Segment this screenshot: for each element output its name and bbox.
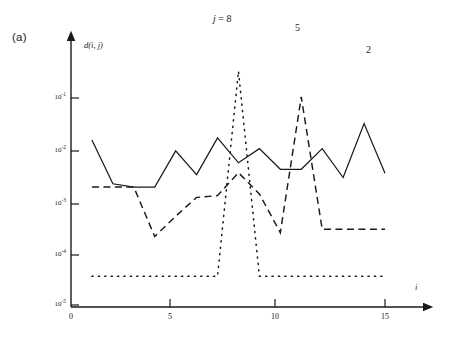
- y-tick-label-1e-5: 10-5: [44, 300, 66, 308]
- y-tick-exponent-4: -4: [62, 248, 67, 254]
- panel-label: (a): [12, 31, 27, 43]
- plot-canvas: [0, 0, 449, 337]
- y-tick-label-1e-3: 10-3: [44, 199, 66, 207]
- y-tick-label-1e-1: 10-1: [44, 93, 66, 101]
- x-tick-label-15: 15: [376, 312, 394, 321]
- annotation-j-equals-8: j = 8: [213, 13, 231, 24]
- y-axis-ticks: [71, 98, 79, 305]
- y-axis-label: d(i, j): [84, 40, 103, 50]
- figure-panel-a: (a) d(i, j) i 10-1 10-2 10-3 10-4 10-5 0…: [0, 0, 449, 337]
- x-tick-label-5: 5: [161, 312, 179, 321]
- x-axis-label: i: [415, 282, 417, 292]
- y-tick-label-1e-4: 10-4: [44, 250, 66, 258]
- x-tick-label-10: 10: [266, 312, 284, 321]
- x-tick-label-0: 0: [62, 312, 80, 321]
- annotation-series-5: 5: [295, 22, 300, 33]
- x-axis-ticks: [170, 299, 385, 307]
- annotation-j-value: = 8: [216, 13, 232, 24]
- series-line-5-dashed: [92, 97, 385, 237]
- y-tick-exponent-1: -1: [62, 91, 67, 97]
- annotation-series-2: 2: [366, 44, 371, 55]
- series-line-2-solid: [92, 124, 385, 187]
- y-tick-exponent-3: -3: [62, 197, 67, 203]
- y-tick-exponent-2: -2: [62, 144, 67, 150]
- y-tick-label-1e-2: 10-2: [44, 146, 66, 154]
- y-tick-exponent-5: -5: [62, 298, 67, 304]
